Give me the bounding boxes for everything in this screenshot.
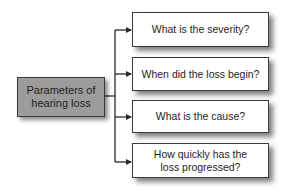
branch-node-label-line1: How quickly has the xyxy=(150,148,251,161)
branch-node-severity: What is the severity? xyxy=(132,12,269,47)
hearing-loss-parameters-diagram: Parameters of hearing loss What is the s… xyxy=(0,0,290,190)
branch-node-cause: What is the cause? xyxy=(132,100,269,133)
branch-node-progression: How quickly has the loss progressed? xyxy=(132,143,269,178)
branch-node-onset: When did the loss begin? xyxy=(132,57,269,91)
branch-node-label: What is the cause? xyxy=(152,110,249,123)
branch-node-label: What is the severity? xyxy=(148,23,253,36)
root-node-parameters-of-hearing-loss: Parameters of hearing loss xyxy=(17,77,105,117)
root-node-label-line1: Parameters of xyxy=(26,84,95,97)
branch-node-label-line2: loss progressed? xyxy=(150,161,251,174)
branch-node-label: When did the loss begin? xyxy=(138,68,264,81)
root-node-label-line2: hearing loss xyxy=(26,97,95,110)
